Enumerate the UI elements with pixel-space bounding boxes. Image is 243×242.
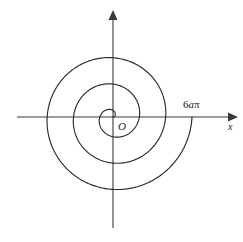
spiral-figure: O x 6aπ [0, 0, 243, 242]
endpoint-pi-symbol: π [194, 98, 200, 110]
spiral-endpoint-label: 6aπ [183, 99, 200, 110]
y-axis-arrow-icon [109, 10, 118, 20]
origin-label: O [118, 121, 126, 132]
x-axis-label: x [228, 122, 232, 132]
